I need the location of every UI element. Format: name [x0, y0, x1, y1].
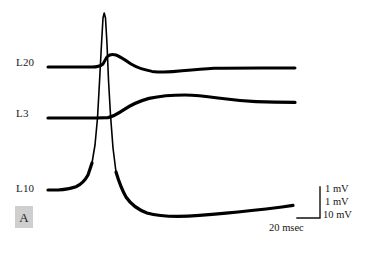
scale-bar-label-voltage-2: 1 mV	[325, 196, 349, 207]
trace-path-L3	[48, 95, 295, 118]
scale-bar-label-voltage-3: 10 mV	[323, 209, 352, 220]
scale-bar-label-voltage-1: 1 mV	[325, 183, 349, 194]
trace-label-l20: L20	[16, 56, 34, 68]
panel-letter-text: A	[19, 211, 28, 224]
trace-path-L10-recovery	[116, 172, 293, 216]
trace-label-l3: L3	[16, 107, 29, 119]
trace-path-L10	[48, 163, 92, 190]
scale-bar	[297, 187, 320, 218]
panel-letter-badge: A	[15, 206, 33, 228]
scale-bar-label-time: 20 msec	[269, 222, 304, 233]
traces-plot	[0, 0, 371, 278]
trace-path-L20	[48, 55, 295, 72]
trace-path-L10-spike	[92, 13, 116, 172]
figure-panel-a: L20 L3 L10 A 1 mV 1 mV 10 mV 20 msec	[0, 0, 371, 278]
trace-label-l10: L10	[16, 182, 34, 194]
